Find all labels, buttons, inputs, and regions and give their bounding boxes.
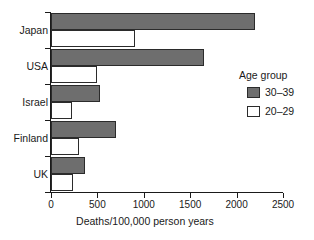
- bar-usa-30-39: [51, 49, 204, 66]
- x-axis-tick: [190, 193, 191, 198]
- legend-label-20-29: 20–29: [265, 105, 294, 117]
- legend-swatch-icon-20-29: [247, 106, 260, 117]
- bar-japan-20-29: [51, 30, 135, 47]
- category-labels: Japan USA Israel Finland UK: [0, 0, 48, 240]
- category-label-israel: Israel: [2, 96, 48, 108]
- bar-israel-30-39: [51, 85, 100, 102]
- x-axis-tick: [237, 193, 238, 198]
- category-label-finland: Finland: [2, 132, 48, 144]
- x-axis-tick: [51, 193, 52, 198]
- legend-title: Age group: [239, 69, 294, 81]
- bar-finland-30-39: [51, 121, 116, 138]
- bar-uk-30-39: [51, 157, 85, 174]
- bar-japan-30-39: [51, 13, 255, 30]
- x-axis-tick: [283, 193, 284, 198]
- legend-label-30-39: 30–39: [265, 86, 294, 98]
- bar-chart: Japan USA Israel Finland UK 050010001500…: [0, 0, 314, 240]
- x-axis-tick: [144, 193, 145, 198]
- category-label-uk: UK: [2, 168, 48, 180]
- bar-finland-20-29: [51, 138, 79, 155]
- x-axis-title: Deaths/100,000 person years: [0, 215, 290, 228]
- x-axis-tick-label: 500: [89, 199, 106, 211]
- x-axis-tick-label: 1000: [133, 199, 155, 211]
- category-label-usa: USA: [2, 60, 48, 72]
- x-axis-tick: [97, 193, 98, 198]
- bar-israel-20-29: [51, 102, 72, 119]
- category-label-japan: Japan: [2, 24, 48, 36]
- bar-usa-20-29: [51, 66, 97, 83]
- bar-uk-20-29: [51, 174, 73, 191]
- legend-item-30-39[interactable]: 30–39: [247, 86, 294, 98]
- legend: Age group 30–39 20–29: [239, 69, 294, 124]
- x-axis-tick-label: 0: [48, 199, 54, 211]
- legend-item-20-29[interactable]: 20–29: [247, 105, 294, 117]
- x-axis-tick-label: 2000: [225, 199, 247, 211]
- x-axis-tick-label: 2500: [272, 199, 294, 211]
- legend-swatch-icon-30-39: [247, 87, 260, 98]
- x-axis-line: [50, 192, 283, 193]
- x-axis-tick-label: 1500: [179, 199, 201, 211]
